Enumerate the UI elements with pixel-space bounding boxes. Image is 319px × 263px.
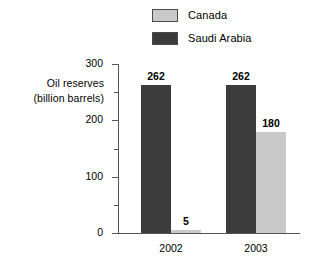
bar-value-2002-canada: 5 [183, 215, 189, 227]
x-axis-line [118, 233, 300, 234]
y-tick-250 [114, 92, 118, 93]
y-tick-150 [114, 149, 118, 150]
bar-chart: Canada Saudi Arabia Oil reserves (billio… [0, 0, 319, 263]
y-tick-50 [114, 205, 118, 206]
y-tick-200: 200 [112, 120, 118, 121]
y-axis-title: Oil reserves (billion barrels) [4, 76, 104, 106]
legend-label-canada: Canada [188, 9, 227, 22]
x-category-label-2002: 2002 [159, 242, 182, 255]
chart-legend: Canada Saudi Arabia [152, 7, 252, 53]
legend-swatch-canada [152, 9, 178, 22]
bar-value-2002-saudi-arabia: 262 [147, 70, 165, 82]
legend-item-saudi-arabia: Saudi Arabia [152, 30, 252, 47]
y-tick-label-100: 100 [85, 170, 103, 183]
y-tick-0: 0 [112, 233, 118, 234]
legend-swatch-saudi-arabia [152, 32, 178, 45]
y-tick-label-300: 300 [85, 57, 103, 70]
legend-label-saudi-arabia: Saudi Arabia [188, 32, 252, 45]
y-axis-title-line2: (billion barrels) [4, 91, 104, 106]
bar-2003-saudi-arabia: 262 [226, 85, 256, 233]
bar-value-2003-saudi-arabia: 262 [232, 70, 250, 82]
legend-item-canada: Canada [152, 7, 252, 24]
y-axis-line [118, 64, 119, 234]
x-category-label-2003: 2003 [244, 242, 267, 255]
bar-2002-saudi-arabia: 262 [141, 85, 171, 233]
y-tick-label-0: 0 [97, 226, 103, 239]
bar-value-2003-canada: 180 [262, 117, 280, 129]
plot-area: 300 200 100 0 262 5 262 180 2002 200 [118, 64, 298, 233]
bar-2003-canada: 180 [256, 132, 286, 233]
y-tick-label-200: 200 [85, 113, 103, 126]
bar-2002-canada: 5 [171, 230, 201, 233]
y-tick-300: 300 [112, 64, 118, 65]
y-axis-title-line1: Oil reserves [4, 76, 104, 91]
y-tick-100: 100 [112, 177, 118, 178]
